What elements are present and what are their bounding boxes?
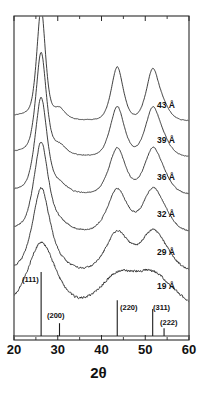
miller-index-label: (111) bbox=[22, 275, 39, 284]
x-tick-label: 40 bbox=[94, 342, 108, 357]
trace-label: 19 Å bbox=[157, 281, 175, 291]
miller-index-labels: (111)(200)(220)(311)(222) bbox=[22, 275, 178, 327]
x-tick-label: 60 bbox=[182, 342, 196, 357]
trace-label: 36 Å bbox=[157, 172, 175, 182]
miller-index-label: (222) bbox=[160, 318, 178, 327]
diffraction-trace bbox=[14, 188, 189, 270]
diffraction-traces bbox=[14, 8, 189, 302]
xrd-plot-svg: 43 Å39 Å36 Å32 Å29 Å19 Å (111)(200)(220)… bbox=[0, 0, 201, 397]
miller-index-label: (220) bbox=[120, 303, 138, 312]
x-axis-tick-labels: 2030405060 bbox=[7, 342, 196, 357]
trace-label: 29 Å bbox=[157, 247, 175, 257]
x-tick-label: 30 bbox=[51, 342, 65, 357]
trace-label: 43 Å bbox=[157, 100, 175, 110]
xrd-figure: 43 Å39 Å36 Å32 Å29 Å19 Å (111)(200)(220)… bbox=[0, 0, 201, 397]
trace-label: 39 Å bbox=[157, 135, 175, 145]
x-tick-label: 50 bbox=[138, 342, 152, 357]
x-tick-label: 20 bbox=[7, 342, 21, 357]
miller-index-label: (311) bbox=[153, 303, 171, 312]
miller-index-label: (200) bbox=[47, 311, 65, 320]
x-axis-title: 2θ bbox=[90, 364, 106, 381]
x-axis-title: 2θ bbox=[90, 364, 106, 381]
trace-label: 32 Å bbox=[157, 209, 175, 219]
